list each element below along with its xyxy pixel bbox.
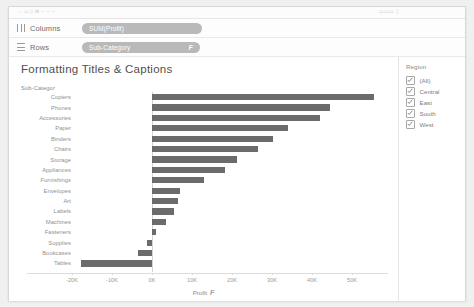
x-axis-tick-mark: [192, 273, 193, 275]
x-axis-tick-mark: [352, 273, 353, 275]
columns-grid-icon: [17, 24, 25, 32]
toolbar-ghost-left: ⌐ ▭ ▯ ⊞ ─ ─ ─: [19, 8, 55, 14]
bar-row[interactable]: Appliances: [9, 165, 398, 175]
x-axis-tick-label: 50K: [347, 277, 357, 283]
x-axis-tick-mark: [272, 273, 273, 275]
bar-row-label: Tables: [9, 260, 71, 266]
x-axis-tick-label: 40K: [307, 277, 317, 283]
x-axis-title-label: Profit: [193, 289, 207, 296]
legend-item[interactable]: West: [406, 119, 465, 130]
bar-row-label: Labels: [9, 208, 71, 214]
checkbox-icon[interactable]: [406, 120, 415, 129]
bar-row[interactable]: Supplies: [9, 237, 398, 247]
bar-row-label: Chairs: [9, 146, 71, 152]
plot-area[interactable]: Formatting Titles & Captions Sub-Categor…: [9, 57, 399, 301]
bar[interactable]: [152, 188, 180, 194]
x-axis-tick-label: 10K: [187, 277, 197, 283]
bar-row[interactable]: Machines: [9, 217, 398, 227]
bar[interactable]: [152, 146, 258, 152]
legend-item-label: East: [420, 99, 432, 106]
bar[interactable]: [147, 240, 152, 246]
bar-row[interactable]: Accessories: [9, 113, 398, 123]
bar[interactable]: [152, 104, 330, 110]
bar-row[interactable]: Binders: [9, 134, 398, 144]
x-axis-tick-label: 20K: [227, 277, 237, 283]
bar-row[interactable]: Chairs: [9, 144, 398, 154]
bar[interactable]: [152, 115, 320, 121]
x-axis-tick-mark: [72, 273, 73, 275]
bar[interactable]: [152, 229, 156, 235]
legend-item-label: South: [420, 110, 436, 117]
rows-shelf[interactable]: Rows Sub-Category F: [9, 38, 465, 57]
bar-row[interactable]: Labels: [9, 206, 398, 216]
bar-row-label: Bookcases: [9, 250, 71, 256]
bar-rows: CopiersPhonesAccessoriesPaperBindersChai…: [9, 92, 398, 269]
columns-shelf-label: Columns: [30, 24, 82, 33]
x-axis-tick-mark: [152, 273, 153, 275]
legend-item[interactable]: East: [406, 97, 465, 108]
bar[interactable]: [152, 136, 273, 142]
row-field-header: Sub-Categor: [21, 85, 55, 91]
bar-row[interactable]: Paper: [9, 123, 398, 133]
region-legend: Region (All)CentralEastSouthWest: [399, 57, 465, 301]
bar[interactable]: [152, 125, 288, 131]
bar[interactable]: [152, 167, 225, 173]
bar[interactable]: [152, 219, 166, 225]
bar[interactable]: [152, 156, 237, 162]
columns-shelf[interactable]: Columns SUM(Profit): [9, 19, 465, 38]
pill-sum-profit-label: SUM(Profit): [89, 25, 124, 32]
x-axis-tick-mark: [232, 273, 233, 275]
x-axis-title[interactable]: ProfitF: [9, 289, 398, 296]
legend-item-label: Central: [420, 88, 440, 95]
tableau-worksheet-window: ⌐ ▭ ▯ ⊞ ─ ─ ─ ▭▭▭ ▯ Columns SUM(Profit) …: [8, 6, 466, 301]
bar-row-label: Envelopes: [9, 188, 71, 194]
x-axis-tick-label: -20K: [66, 277, 78, 283]
x-axis-tick-label: 0K: [149, 277, 156, 283]
bar-row-label: Binders: [9, 136, 71, 142]
bar-row-label: Storage: [9, 157, 71, 163]
checkbox-icon[interactable]: [406, 109, 415, 118]
bar[interactable]: [152, 208, 174, 214]
bar-row[interactable]: Art: [9, 196, 398, 206]
legend-item-list: (All)CentralEastSouthWest: [406, 75, 465, 130]
bar-row-label: Paper: [9, 125, 71, 131]
checkbox-icon[interactable]: [406, 76, 415, 85]
pill-sub-category-label: Sub-Category: [89, 44, 130, 51]
bar[interactable]: [81, 260, 152, 266]
bar-row-label: Machines: [9, 219, 71, 225]
bar-row[interactable]: Fasteners: [9, 227, 398, 237]
x-axis-tick-label: -10K: [106, 277, 118, 283]
bar[interactable]: [152, 94, 374, 100]
x-axis-rule: [27, 273, 388, 274]
bar-row[interactable]: Storage: [9, 154, 398, 164]
bar-row-label: Appliances: [9, 167, 71, 173]
bar-row[interactable]: Bookcases: [9, 248, 398, 258]
bar-row[interactable]: Furnishings: [9, 175, 398, 185]
rows-shelf-label: Rows: [30, 43, 82, 52]
bar[interactable]: [138, 250, 152, 256]
bar-row-label: Phones: [9, 105, 71, 111]
visualization-area: Formatting Titles & Captions Sub-Categor…: [9, 57, 465, 301]
bar-row[interactable]: Phones: [9, 102, 398, 112]
bar-row[interactable]: Copiers: [9, 92, 398, 102]
sort-icon[interactable]: F: [189, 44, 193, 51]
checkbox-icon[interactable]: [406, 87, 415, 96]
legend-item[interactable]: South: [406, 108, 465, 119]
bar[interactable]: [152, 177, 204, 183]
pill-sum-profit[interactable]: SUM(Profit): [82, 23, 202, 34]
bar-row-label: Fasteners: [9, 229, 71, 235]
axis-sort-icon[interactable]: F: [210, 289, 214, 296]
page-title[interactable]: Formatting Titles & Captions: [21, 63, 172, 75]
checkbox-icon[interactable]: [406, 98, 415, 107]
x-axis-tick-mark: [312, 273, 313, 275]
bar-row[interactable]: Tables: [9, 258, 398, 268]
bar-row[interactable]: Envelopes: [9, 186, 398, 196]
pill-sub-category[interactable]: Sub-Category F: [82, 42, 200, 53]
bar-row-label: Furnishings: [9, 177, 71, 183]
legend-item[interactable]: Central: [406, 86, 465, 97]
toolbar-ghost-right: ▭▭▭ ▯: [379, 8, 399, 14]
bar-row-label: Art: [9, 198, 71, 204]
bar[interactable]: [152, 198, 178, 204]
bar-row-label: Accessories: [9, 115, 71, 121]
legend-item[interactable]: (All): [406, 75, 465, 86]
